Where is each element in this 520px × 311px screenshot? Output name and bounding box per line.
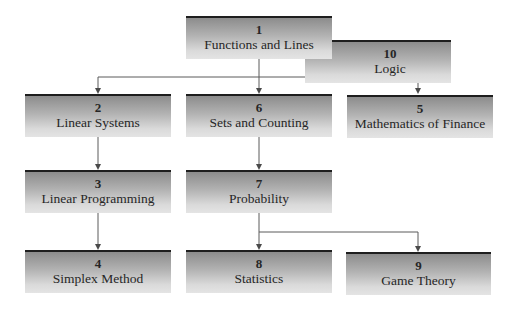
node-title: Linear Systems	[25, 115, 171, 131]
node-title: Functions and Lines	[186, 37, 332, 53]
chapter-flowchart: 10 Logic 1 Functions and Lines 2 Linear …	[0, 0, 520, 311]
node-title: Mathematics of Finance	[347, 116, 493, 132]
node-statistics: 8 Statistics	[186, 250, 332, 293]
node-number: 6	[186, 101, 332, 115]
node-probability: 7 Probability	[186, 170, 332, 213]
node-number: 7	[186, 177, 332, 191]
node-simplex-method: 4 Simplex Method	[25, 250, 171, 293]
node-number: 4	[25, 257, 171, 271]
node-number: 3	[25, 177, 171, 191]
node-title: Simplex Method	[25, 271, 171, 287]
node-functions-and-lines: 1 Functions and Lines	[186, 16, 332, 59]
node-sets-and-counting: 6 Sets and Counting	[186, 94, 332, 137]
node-title: Linear Programming	[25, 191, 171, 207]
node-number: 9	[346, 259, 491, 273]
node-title: Logic	[329, 61, 451, 77]
node-number: 5	[347, 102, 493, 116]
node-number: 10	[329, 47, 451, 61]
node-title: Statistics	[186, 271, 332, 287]
node-linear-systems: 2 Linear Systems	[25, 94, 171, 137]
node-game-theory: 9 Game Theory	[346, 252, 491, 295]
node-number: 8	[186, 257, 332, 271]
node-mathematics-of-finance: 5 Mathematics of Finance	[347, 95, 493, 138]
node-number: 2	[25, 101, 171, 115]
node-number: 1	[186, 23, 332, 37]
node-title: Game Theory	[346, 273, 491, 289]
node-linear-programming: 3 Linear Programming	[25, 170, 171, 213]
node-title: Probability	[186, 191, 332, 207]
node-title: Sets and Counting	[186, 115, 332, 131]
